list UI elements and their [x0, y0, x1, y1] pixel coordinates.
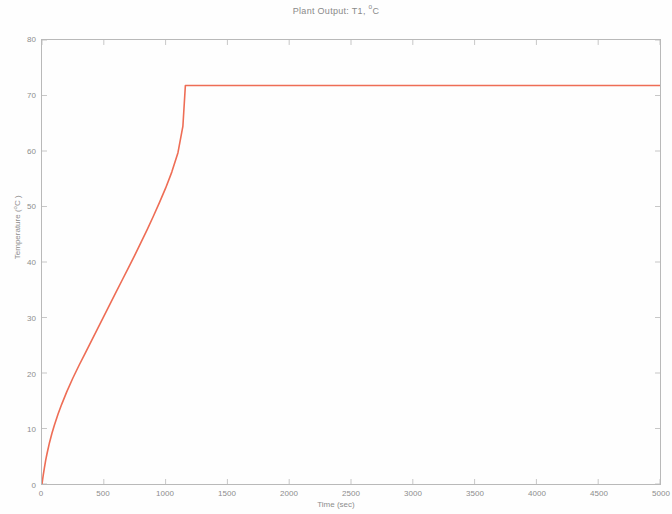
- x-tick-label: 5000: [652, 489, 670, 498]
- x-tick-label: 3500: [466, 489, 484, 498]
- chart-title-text: Plant Output: T1,: [293, 6, 369, 16]
- x-tick-label: 500: [96, 489, 109, 498]
- x-tick-label: 2500: [342, 489, 360, 498]
- x-tick-label: 0: [39, 489, 43, 498]
- figure-canvas: Plant Output: T1, oC Temperature (oC ) T…: [0, 0, 672, 514]
- x-tick-label: 4000: [528, 489, 546, 498]
- plot-svg: [42, 40, 660, 484]
- x-tick-label: 1000: [156, 489, 174, 498]
- tick-marks: [42, 40, 660, 484]
- chart-title: Plant Output: T1, oC: [0, 4, 672, 16]
- x-tick-label: 1500: [218, 489, 236, 498]
- x-tick-label: 4500: [590, 489, 608, 498]
- y-axis-tick-labels: 01020304050607080: [0, 39, 36, 485]
- chart-title-unit: C: [372, 6, 379, 16]
- y-tick-label: 0: [32, 481, 36, 490]
- y-tick-label: 30: [27, 313, 36, 322]
- y-tick-label: 20: [27, 369, 36, 378]
- y-tick-label: 70: [27, 90, 36, 99]
- y-tick-label: 60: [27, 146, 36, 155]
- y-tick-label: 80: [27, 35, 36, 44]
- y-tick-label: 10: [27, 425, 36, 434]
- x-tick-label: 2000: [280, 489, 298, 498]
- data-series-t1: [42, 86, 660, 484]
- degree-symbol: o: [369, 3, 373, 10]
- x-tick-label: 3000: [404, 489, 422, 498]
- x-axis-tick-labels: 0500100015002000250030003500400045005000: [41, 489, 661, 503]
- plot-area: [41, 39, 661, 485]
- y-tick-label: 50: [27, 202, 36, 211]
- y-tick-label: 40: [27, 258, 36, 267]
